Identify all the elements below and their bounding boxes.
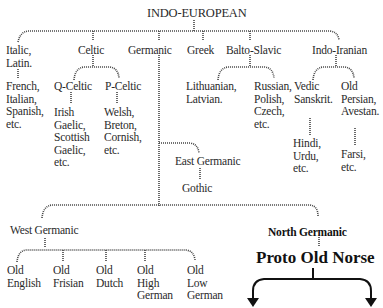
old-frisian-label: Old Frisian (53, 264, 84, 289)
q-celtic-children: Irish Gaelic, Scottish Gaelic, etc. (54, 106, 89, 169)
gothic-label: Gothic (182, 182, 212, 195)
baltic-children: Lithuanian, Latvian. (186, 80, 237, 105)
balto-slavic-split (218, 67, 274, 80)
slavic-children: Russian, Polish, Czech, etc. (254, 80, 292, 130)
east-germanic-branch (159, 143, 199, 153)
vedic-children: Hindi, Urdu, etc. (293, 137, 321, 175)
indo-iranian-label: Indo-Iranian (312, 44, 367, 57)
p-celtic-label: P-Celtic (105, 80, 141, 93)
indo-iranian-split (313, 67, 354, 80)
germanic-bar (42, 205, 318, 218)
old-dutch-label: Old Dutch (96, 264, 123, 289)
old-low-german-label: Old Low German (187, 264, 223, 302)
west-germanic-label: West Germanic (10, 224, 78, 237)
top-bar (18, 31, 339, 42)
language-family-tree: INDO-EUROPEAN Italic, Latin. French, Ita… (0, 0, 383, 308)
old-english-label: Old English (7, 264, 41, 289)
proto-old-norse-label: Proto Old Norse (256, 249, 375, 267)
italic-children: French, Italian, Spanish, etc. (6, 80, 44, 130)
vedic-label: Vedic Sanskrit. (294, 80, 333, 105)
germanic-label: Germanic (128, 44, 172, 57)
greek-label: Greek (187, 44, 214, 57)
persian-children: Farsi, etc. (341, 148, 366, 173)
east-germanic-label: East Germanic (175, 155, 240, 168)
arrow-down-icon (247, 298, 259, 307)
old-persian-label: Old Persian, Avestan. (341, 80, 379, 118)
proto-norse-split (253, 279, 371, 301)
q-celtic-label: Q-Celtic (54, 80, 92, 93)
celtic-label: Celtic (78, 44, 104, 57)
italic-label: Italic, Latin. (6, 44, 32, 69)
root-label: INDO-EUROPEAN (147, 7, 246, 20)
p-celtic-children: Welsh, Breton, Cornish, etc. (104, 106, 142, 156)
celtic-split (74, 67, 119, 80)
north-germanic-label: North Germanic (268, 226, 347, 239)
balto-slavic-label: Balto-Slavic (226, 44, 281, 57)
old-high-german-label: Old High German (137, 264, 173, 302)
arrow-down-icon (365, 298, 377, 307)
